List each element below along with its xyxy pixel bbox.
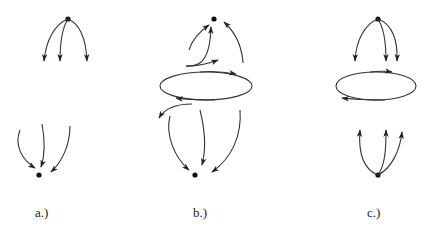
outgoing-arrow [378, 130, 386, 175]
outgoing-arrow [159, 104, 192, 118]
sink-node [36, 172, 41, 177]
sink-node [211, 16, 216, 21]
panel-b: b.) [159, 16, 252, 220]
incoming-arrow [212, 110, 240, 172]
orbit-direction-arrow [176, 98, 215, 100]
outgoing-arrow [60, 19, 68, 61]
outgoing-arrow [378, 19, 386, 61]
incoming-arrow [51, 126, 70, 172]
incoming-arrow [224, 22, 243, 63]
incoming-arrow [41, 124, 44, 167]
incoming-arrow [169, 116, 189, 170]
panel-label: c.) [367, 205, 380, 220]
panel-a: a.) [18, 16, 87, 220]
panel-label: b.) [193, 205, 207, 220]
phase-portrait-figure: a.) b.) c.) [0, 0, 435, 230]
panel-c: c.) [336, 16, 416, 220]
outgoing-arrow [360, 130, 378, 175]
closed-orbit [336, 72, 416, 100]
panel-label: a.) [35, 205, 48, 220]
incoming-arrow [200, 110, 204, 165]
incoming-arrow [18, 130, 35, 168]
sink-node [192, 172, 197, 177]
incoming-arrow [189, 25, 209, 50]
closed-orbit [160, 72, 252, 100]
outgoing-arrow [355, 19, 378, 61]
outgoing-arrow [68, 19, 87, 61]
